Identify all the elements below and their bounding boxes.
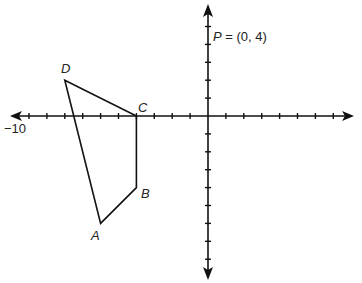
axis-arrows [10, 4, 354, 280]
vertex-label-d: D [61, 62, 70, 75]
quadrilateral-abcd [65, 80, 137, 223]
vertex-label-b: B [141, 187, 150, 200]
vertex-label-a: A [91, 229, 100, 242]
point-p-label: P = (0, 4) [213, 30, 267, 43]
point-p-name: P [213, 29, 222, 44]
point-p-value: = (0, 4) [225, 29, 267, 44]
axis-ticks [29, 27, 333, 260]
coordinate-plane [0, 0, 362, 283]
vertex-label-c: C [138, 101, 147, 114]
x-axis-label-minus-10: −10 [4, 122, 26, 135]
